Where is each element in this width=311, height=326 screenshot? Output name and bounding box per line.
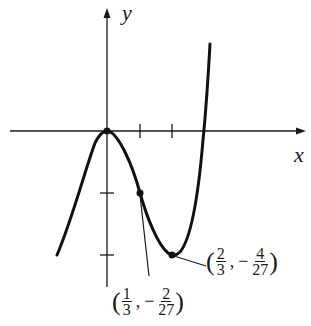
x-axis-label: x	[294, 142, 304, 168]
origin-point	[104, 128, 111, 135]
inflection-y-fraction: 2 27	[158, 286, 174, 317]
x-axis-arrow-icon	[296, 128, 306, 135]
minimum-y-fraction: 4 27	[252, 246, 268, 277]
inflection-point-label: ( 1 3 , − 2 27 )	[112, 286, 184, 317]
curve	[57, 44, 210, 255]
inflection-x-fraction: 1 3	[122, 286, 132, 317]
minimum-point	[169, 252, 176, 259]
minimum-point-label: ( 2 3 , − 4 27 )	[206, 246, 278, 277]
minimum-x-fraction: 2 3	[216, 246, 226, 277]
minimum-leader-line	[174, 256, 206, 266]
y-axis-arrow-icon	[104, 8, 111, 18]
y-axis-label: y	[122, 0, 132, 26]
